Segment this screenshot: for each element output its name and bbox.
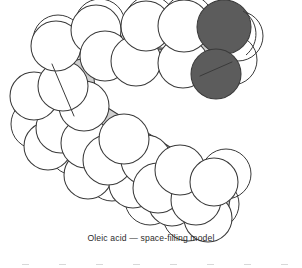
- figure-caption: Oleic acid — space-filling model: [0, 233, 302, 243]
- footer-tick: [133, 264, 140, 265]
- oxygen-sphere-2: [191, 49, 241, 99]
- oxygen-sphere-1: [197, 0, 251, 54]
- hydrogen-sphere-t4: [190, 158, 238, 206]
- footer-tick: [244, 264, 251, 265]
- footer-tick: [96, 264, 103, 265]
- footer-tick: [170, 264, 177, 265]
- footer-tick: [59, 264, 66, 265]
- footer-clipped-marks: [0, 261, 302, 268]
- footer-tick: [207, 264, 214, 265]
- space-filling-model-illustration: .sphere { fill:#ffffff; stroke:#3a3a3a; …: [0, 0, 302, 268]
- footer-tick: [281, 264, 288, 265]
- molecule-group: [10, 0, 263, 242]
- figure-root: .sphere { fill:#ffffff; stroke:#3a3a3a; …: [0, 0, 302, 268]
- upper-chain-hydrogens: [71, 0, 210, 88]
- footer-tick: [22, 264, 29, 265]
- hydrogen-sphere-t2: [99, 114, 149, 164]
